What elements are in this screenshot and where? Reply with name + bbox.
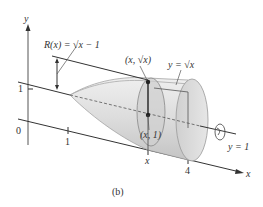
origin-label: 0 [16, 125, 21, 136]
radius-arrow-bottom-icon [55, 85, 59, 90]
x-tick-4-label: 4 [185, 165, 190, 176]
y-tick-1-label: 1 [18, 83, 23, 94]
radius-label: R(x) = √x − 1 [43, 39, 100, 51]
top-point-label: (x, √x) [125, 54, 152, 66]
radius-label-leader [57, 47, 76, 74]
x-tick-1-label: 1 [65, 136, 70, 147]
y-axis-label: y [23, 13, 29, 24]
rotation-axis-left [18, 82, 70, 95]
axis-point-label: (x, 1) [140, 129, 162, 141]
x-axis-label: x [245, 168, 251, 179]
x-tick-x-label: x [144, 155, 150, 166]
rotation-arrow-icon [215, 124, 225, 140]
top-point-marker [146, 80, 150, 84]
figure-caption: (b) [112, 186, 124, 198]
curve-label: y = √x [167, 59, 195, 70]
y-axis-arrow-icon [26, 24, 31, 31]
radius-arrow-top-icon [55, 58, 59, 63]
x-axis-arrow-icon [235, 169, 244, 174]
solid-of-revolution-diagram: y x 0 1 1 x 4 R(x) = √x − 1 (x, √x) y = … [0, 0, 263, 207]
rotation-axis-label: y = 1 [227, 141, 249, 152]
